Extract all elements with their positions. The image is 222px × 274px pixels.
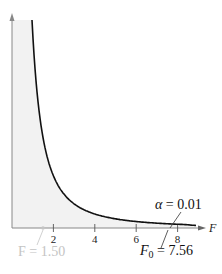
y-axis-arrow-icon [10, 13, 15, 21]
f-distribution-chart: F 2468 F = 1.50 α = 0.01 F0 = 7.56 [0, 0, 222, 274]
x-axis-label: F [208, 221, 217, 235]
f0-label: F0 = 7.56 [139, 243, 193, 260]
x-axis-arrow-icon [198, 226, 206, 231]
f-stat-pointer [37, 230, 43, 245]
alpha-label: α = 0.01 [155, 197, 202, 212]
x-tick-label: 6 [133, 233, 139, 245]
x-tick-label: 4 [92, 233, 98, 245]
f-stat-marker [41, 226, 45, 230]
f-stat-label: F = 1.50 [18, 244, 65, 259]
